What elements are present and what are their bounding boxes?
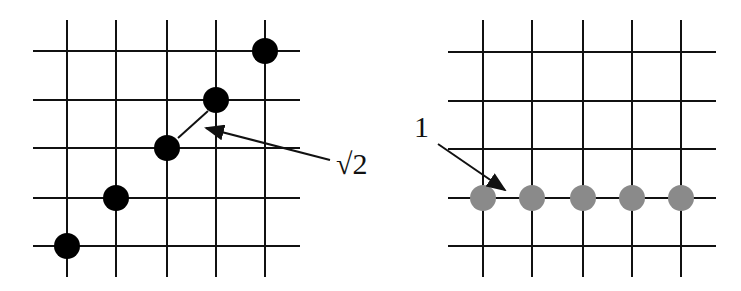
lattice-point	[252, 38, 278, 64]
unit-distance-arrow	[438, 144, 505, 190]
unit-distance-label: 1	[414, 110, 429, 143]
lattice-point	[570, 185, 596, 211]
left-lattice-panel: √2	[33, 20, 367, 277]
lattice-point	[470, 185, 496, 211]
lattice-point	[54, 233, 80, 259]
lattice-point	[203, 87, 229, 113]
lattice-point	[154, 135, 180, 161]
lattice-point	[668, 185, 694, 211]
right-lattice-panel: 1	[414, 20, 716, 277]
right-grid	[448, 20, 716, 277]
lattice-point	[103, 185, 129, 211]
sqrt2-arrow	[206, 128, 330, 160]
lattice-point	[619, 185, 645, 211]
lattice-point	[519, 185, 545, 211]
diagonal-connector	[178, 111, 208, 138]
lattice-diagram: √2 1	[0, 0, 741, 291]
sqrt2-label: √2	[336, 147, 367, 180]
